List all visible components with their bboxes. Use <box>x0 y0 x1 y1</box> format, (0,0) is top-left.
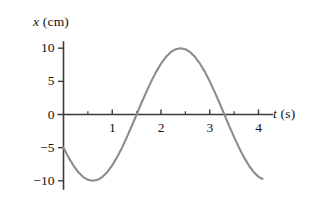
x-tick-label: 2 <box>158 120 165 136</box>
y-tick-label: −5 <box>40 140 54 156</box>
x-axis-title: t (s) <box>273 106 295 122</box>
x-tick-label: 4 <box>255 120 262 136</box>
chart-figure: x (cm) t (s) 1050−5−10 1234 <box>0 0 316 201</box>
x-tick-label: 3 <box>206 120 213 136</box>
y-tick-label: −10 <box>33 173 54 189</box>
y-tick-label: 5 <box>48 73 55 89</box>
y-axis-variable: x <box>33 14 39 29</box>
y-tick-label: 0 <box>48 107 55 123</box>
plot-canvas <box>0 0 316 201</box>
axes-group <box>58 41 274 189</box>
x-axis-unit: (s) <box>281 106 296 121</box>
y-axis-unit: (cm) <box>43 14 69 29</box>
y-axis-title: x (cm) <box>33 14 69 30</box>
x-tick-label: 1 <box>109 120 116 136</box>
y-tick-label: 10 <box>41 40 55 56</box>
x-axis-variable: t <box>273 106 277 121</box>
